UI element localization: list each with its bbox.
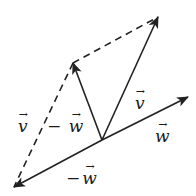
label-v-minus-w-right: w xyxy=(69,118,84,135)
label-neg-w-symbol: w xyxy=(82,170,97,187)
vector-w-arrow xyxy=(102,97,188,140)
label-neg-w-minus: − xyxy=(66,168,80,188)
vector-diagram: v w −w v − w xyxy=(0,0,196,196)
vector-diagram-canvas xyxy=(0,0,196,196)
label-v-minus-w: v − w xyxy=(18,118,83,135)
label-w: w xyxy=(155,128,170,145)
label-v: v xyxy=(135,95,145,112)
label-v-minus-w-minus: − xyxy=(47,116,61,136)
label-w-symbol: w xyxy=(155,128,170,145)
dashed-line-top xyxy=(73,17,158,63)
label-neg-w: −w xyxy=(64,170,97,187)
label-v-symbol: v xyxy=(135,95,145,112)
label-v-minus-w-left: v xyxy=(18,118,28,135)
vector-v-arrow xyxy=(102,17,158,140)
